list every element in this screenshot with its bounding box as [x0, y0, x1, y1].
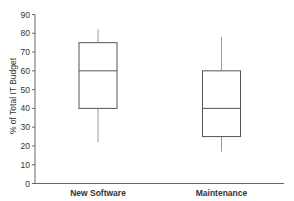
iqr-box	[203, 71, 241, 137]
boxes: New SoftwareMaintenance	[70, 30, 247, 198]
y-tick-label: 70	[21, 47, 31, 57]
box-plot-chart: 0102030405060708090 New SoftwareMaintena…	[0, 0, 294, 201]
iqr-box	[79, 43, 117, 109]
box-new-software: New Software	[70, 30, 126, 198]
y-axis: 0102030405060708090	[21, 10, 35, 189]
y-tick-label: 80	[21, 28, 31, 38]
y-tick-label: 30	[21, 122, 31, 132]
y-tick-label: 10	[21, 160, 31, 170]
category-label: Maintenance	[196, 188, 248, 198]
y-tick-label: 90	[21, 10, 31, 20]
y-tick-label: 60	[21, 66, 31, 76]
y-tick-label: 0	[25, 179, 30, 189]
y-tick-label: 50	[21, 85, 31, 95]
y-tick-label: 40	[21, 103, 31, 113]
box-maintenance: Maintenance	[196, 37, 248, 198]
category-label: New Software	[70, 188, 126, 198]
y-axis-title: % of Total IT Budget	[8, 57, 18, 134]
y-tick-label: 20	[21, 141, 31, 151]
